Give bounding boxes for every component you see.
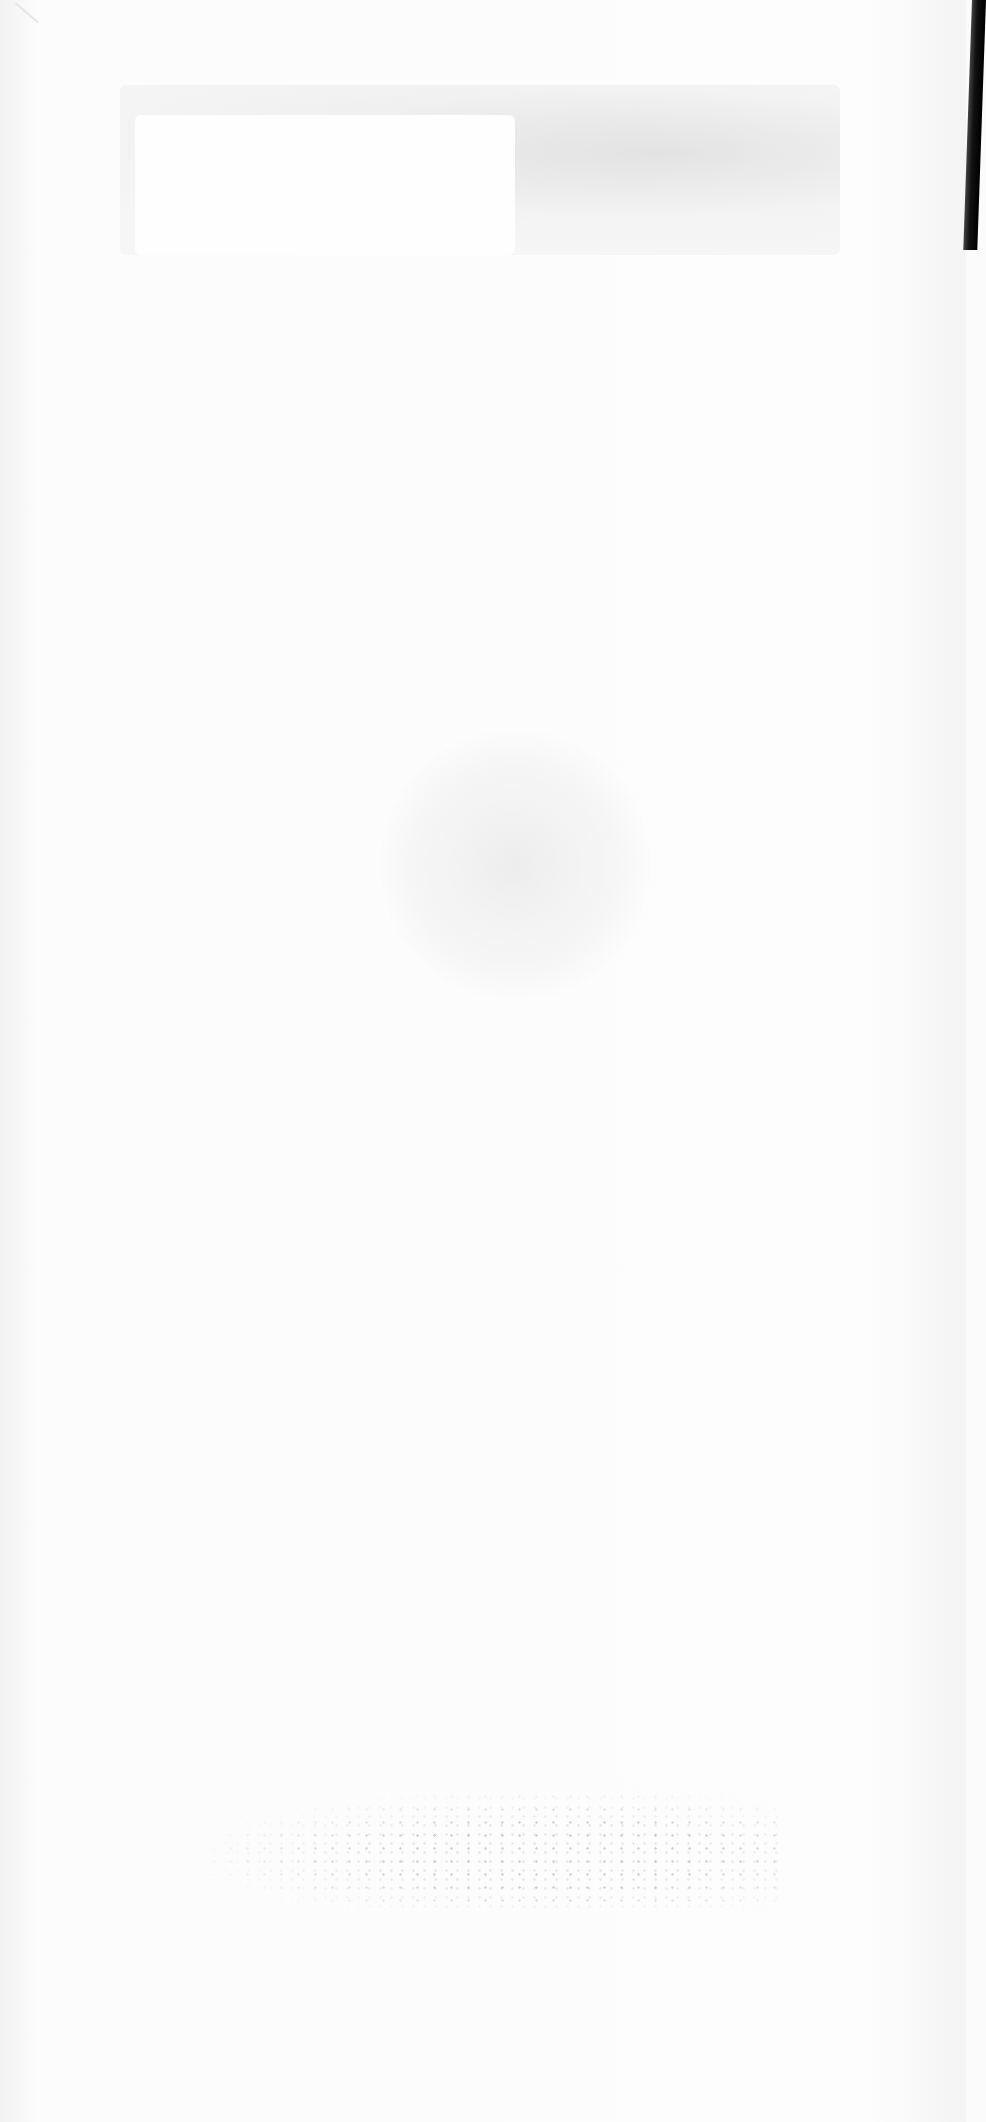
bleed-through-cover-image bbox=[120, 85, 840, 255]
bleed-through-emblem bbox=[380, 730, 650, 1000]
book-binding-edge bbox=[963, 0, 986, 250]
scanned-page bbox=[0, 0, 966, 2122]
page-corner-mark bbox=[15, 3, 39, 24]
bleed-through-image-blank-area bbox=[135, 115, 515, 255]
bleed-through-library-stamp bbox=[205, 1790, 785, 1910]
